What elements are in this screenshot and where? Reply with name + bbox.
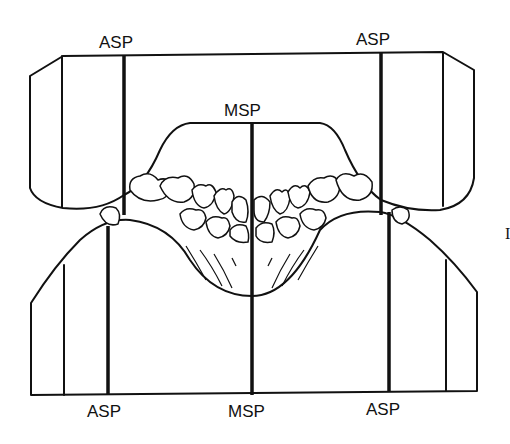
label-asp-bottom-left: ASP	[87, 403, 121, 420]
lower-frame	[31, 211, 477, 395]
label-asp-top-right: ASP	[356, 31, 390, 48]
label-msp-bottom: MSP	[228, 403, 265, 420]
teeth-illustration	[100, 174, 409, 243]
label-asp-bottom-right: ASP	[366, 401, 400, 418]
side-mark: I	[505, 226, 510, 242]
label-asp-top-left: ASP	[99, 34, 133, 51]
label-msp-top: MSP	[224, 102, 261, 119]
